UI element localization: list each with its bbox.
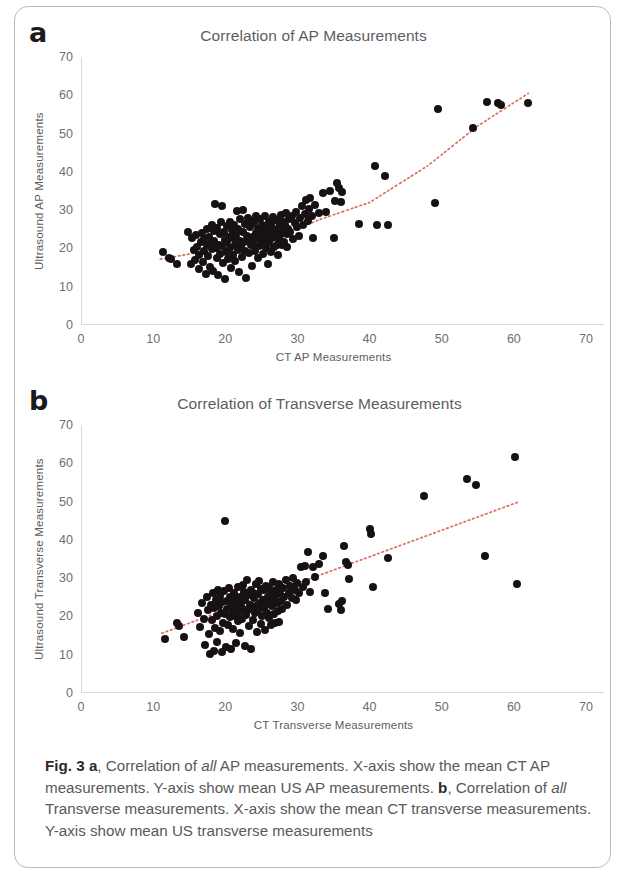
panel-b-y-tick-70: 70 <box>59 418 73 432</box>
panel-a-x-tick-50: 50 <box>435 332 449 346</box>
scatter-point <box>232 639 240 647</box>
scatter-point <box>384 554 392 562</box>
scatter-point <box>324 605 332 613</box>
panel-a-y-tick-40: 40 <box>59 165 73 179</box>
panel-b-x-tick-60: 60 <box>507 700 521 714</box>
scatter-point <box>367 530 375 538</box>
panel-a-y-axis-label: Ultrasound AP Measurements <box>33 112 45 270</box>
panel-a-y-tick-0: 0 <box>66 318 73 332</box>
scatter-point <box>175 622 183 630</box>
caption-a-emphasis: all <box>201 757 216 774</box>
panel-a-x-tick-60: 60 <box>507 332 521 346</box>
panel-a-y-tick-70: 70 <box>59 50 73 64</box>
panel-b-scatter-canvas <box>81 425 586 693</box>
panel-a-x-tick-30: 30 <box>290 332 304 346</box>
scatter-point <box>355 220 363 228</box>
scatter-point <box>306 588 314 596</box>
panel-a-x-tick-0: 0 <box>78 332 85 346</box>
scatter-point <box>283 601 291 609</box>
scatter-point <box>221 517 229 525</box>
caption-marker-b: b <box>438 779 447 796</box>
scatter-point <box>253 628 261 636</box>
scatter-point <box>264 260 272 268</box>
scatter-point <box>221 275 229 283</box>
scatter-point <box>210 647 218 655</box>
scatter-point <box>321 589 329 597</box>
scatter-point <box>511 453 519 461</box>
panel-b-x-tick-0: 0 <box>78 700 85 714</box>
panel-a-y-tick-50: 50 <box>59 127 73 141</box>
scatter-point <box>249 616 257 624</box>
scatter-point <box>326 187 334 195</box>
panel-a: a Correlation of AP Measurements Ultraso… <box>15 11 612 379</box>
panel-b-y-tick-0: 0 <box>66 686 73 700</box>
panel-b-y-tick-20: 20 <box>59 609 73 623</box>
scatter-point <box>472 481 480 489</box>
panel-b-y-tick-40: 40 <box>59 533 73 547</box>
scatter-point <box>161 635 169 643</box>
scatter-point <box>311 573 319 581</box>
scatter-point <box>243 576 251 584</box>
scatter-point <box>322 208 330 216</box>
scatter-point <box>340 542 348 550</box>
panel-b-y-tick-10: 10 <box>59 648 73 662</box>
scatter-point <box>201 641 209 649</box>
scatter-point <box>497 101 505 109</box>
scatter-point <box>218 202 226 210</box>
panel-b-x-tick-20: 20 <box>218 700 232 714</box>
caption-b-emphasis: all <box>551 779 566 796</box>
scatter-point <box>319 552 327 560</box>
scatter-point <box>513 580 521 588</box>
panel-b-x-tick-40: 40 <box>363 700 377 714</box>
panel-a-x-tick-20: 20 <box>218 332 232 346</box>
panel-a-y-tick-10: 10 <box>59 280 73 294</box>
panel-a-scatter-canvas <box>81 57 586 325</box>
scatter-point <box>381 172 389 180</box>
scatter-point <box>463 475 471 483</box>
scatter-point <box>304 548 312 556</box>
scatter-point <box>239 206 247 214</box>
scatter-point <box>434 105 442 113</box>
panel-a-y-tick-30: 30 <box>59 203 73 217</box>
panel-a-title: Correlation of AP Measurements <box>15 27 612 45</box>
scatter-point <box>345 575 353 583</box>
scatter-point <box>200 615 208 623</box>
scatter-point <box>337 198 345 206</box>
panel-a-y-tick-20: 20 <box>59 241 73 255</box>
scatter-point <box>431 199 439 207</box>
scatter-point <box>338 188 346 196</box>
scatter-point <box>248 262 256 270</box>
scatter-point <box>344 561 352 569</box>
panel-b-x-tick-30: 30 <box>290 700 304 714</box>
panel-b-plot-area: Ultrasound Transverse Measurements CT Tr… <box>81 425 586 693</box>
scatter-point <box>315 560 323 568</box>
scatter-point <box>301 562 309 570</box>
scatter-point <box>311 201 319 209</box>
scatter-point <box>420 492 428 500</box>
scatter-point <box>196 623 204 631</box>
scatter-point <box>371 162 379 170</box>
scatter-point <box>338 597 346 605</box>
scatter-point <box>283 243 291 251</box>
caption-figure-number: Fig. 3 <box>45 757 85 774</box>
figure-frame: a Correlation of AP Measurements Ultraso… <box>14 6 611 868</box>
panel-b-y-axis-label: Ultrasound Transverse Measurements <box>33 458 45 660</box>
scatter-point <box>481 552 489 560</box>
scatter-point <box>483 98 491 106</box>
scatter-point <box>369 583 377 591</box>
panel-b-x-axis-label: CT Transverse Measurements <box>81 719 586 731</box>
scatter-point <box>524 99 532 107</box>
scatter-point <box>302 578 310 586</box>
scatter-point <box>204 252 212 260</box>
scatter-point <box>247 645 255 653</box>
scatter-point <box>295 232 303 240</box>
scatter-point <box>173 260 181 268</box>
panel-b-x-tick-50: 50 <box>435 700 449 714</box>
scatter-point <box>309 234 317 242</box>
scatter-point <box>275 618 283 626</box>
panel-a-x-axis-label: CT AP Measurements <box>81 351 586 363</box>
panel-b-title: Correlation of Transverse Measurements <box>15 395 612 413</box>
caption-a-pre: , Correlation of <box>97 757 201 774</box>
scatter-point <box>236 629 244 637</box>
caption-b-pre: , Correlation of <box>447 779 551 796</box>
